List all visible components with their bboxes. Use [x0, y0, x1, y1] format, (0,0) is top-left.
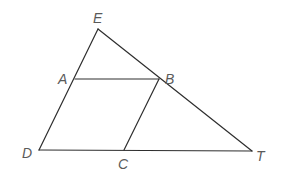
segment-ED [39, 29, 98, 150]
label-E: E [93, 10, 103, 26]
segment-BC [124, 79, 159, 150]
label-B: B [165, 71, 174, 87]
segment-ET [98, 29, 252, 151]
segments-group [39, 29, 252, 151]
geometry-diagram: E A B D C T [0, 0, 281, 180]
diagram-svg: E A B D C T [0, 0, 281, 180]
segment-DT [39, 150, 252, 151]
label-A: A [57, 71, 67, 87]
label-D: D [22, 145, 32, 161]
labels-group: E A B D C T [22, 10, 266, 172]
label-C: C [118, 156, 129, 172]
label-T: T [256, 148, 266, 164]
